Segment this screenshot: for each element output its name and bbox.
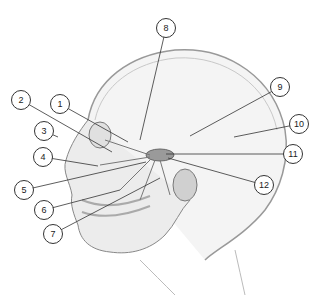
callout-2: 2 — [11, 90, 31, 110]
callout-7: 7 — [43, 224, 63, 244]
callout-1: 1 — [50, 94, 70, 114]
callout-3: 3 — [34, 121, 54, 141]
neck-outline — [140, 250, 245, 295]
callout-6: 6 — [34, 200, 54, 220]
trigeminal-ganglion — [146, 149, 174, 161]
callout-5: 5 — [14, 180, 34, 200]
ear-region — [173, 169, 197, 201]
callout-11: 11 — [283, 144, 303, 164]
callout-9: 9 — [270, 77, 290, 97]
callout-8: 8 — [156, 18, 176, 38]
callout-4: 4 — [33, 147, 53, 167]
callout-10: 10 — [289, 114, 309, 134]
callout-12: 12 — [254, 175, 274, 195]
